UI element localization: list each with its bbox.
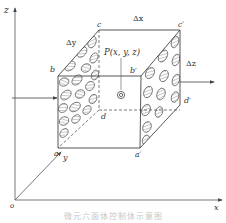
right-face-hatched <box>140 35 182 146</box>
vertex-label-c-prime: c′ <box>178 20 184 29</box>
front-face <box>58 76 141 148</box>
control-volume-diagram: z x y o <box>0 0 226 223</box>
z-axis-label: z <box>3 5 9 15</box>
coordinate-axes: z x y o <box>3 5 222 212</box>
point-label: P(x, y, z) <box>103 47 140 57</box>
vertex-label-b-prime: b′ <box>130 66 137 75</box>
vertex-label-a-prime: a′ <box>135 150 141 159</box>
edge-bprime-cprime <box>141 30 180 76</box>
figure-caption: 微元六面体控制体示意图 <box>0 210 226 221</box>
vertex-label-a: a <box>54 149 58 158</box>
vertex-label-d-prime: d′ <box>184 96 191 105</box>
dimension-label-dx: Δx <box>133 14 144 23</box>
left-face-hatched <box>57 35 100 139</box>
vertex-label-b: b <box>50 65 55 74</box>
bullseye-icon <box>117 91 124 98</box>
dimension-label-dy: Δy <box>66 38 77 47</box>
vertex-label-d: d <box>101 112 106 121</box>
y-axis-label: y <box>62 153 68 162</box>
origin-label: o <box>10 202 14 210</box>
dimension-label-dz: Δz <box>186 59 196 68</box>
vertex-label-c: c <box>97 20 102 29</box>
edge-b-c <box>58 30 99 76</box>
y-axis <box>15 152 61 200</box>
